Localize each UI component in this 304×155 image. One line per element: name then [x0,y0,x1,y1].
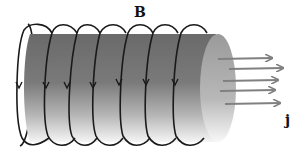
diagram-canvas [0,0,304,155]
conductor-cylinder [24,34,236,142]
current-arrow [223,80,278,81]
current-arrow [225,103,280,104]
current-arrow [220,90,275,91]
cylinder-end-cap [200,34,236,142]
current-density-label: j [285,112,290,128]
current-arrow [229,68,283,69]
magnetic-field-label: B [134,4,146,20]
current-arrow [218,58,272,59]
solenoid-field-diagram: B j [0,0,304,155]
